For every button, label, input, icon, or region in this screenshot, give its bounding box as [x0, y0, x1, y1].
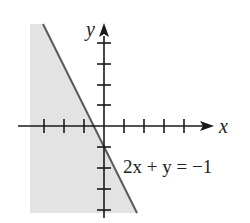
x-axis-label: x	[218, 115, 228, 137]
inequality-graph: y x 2x + y = −1	[0, 0, 250, 223]
shaded-region	[30, 24, 137, 213]
graph-canvas: y x 2x + y = −1	[0, 0, 250, 223]
y-axis-arrow-icon	[99, 23, 109, 37]
equation-label: 2x + y = −1	[123, 156, 212, 177]
y-axis-label: y	[84, 18, 95, 41]
